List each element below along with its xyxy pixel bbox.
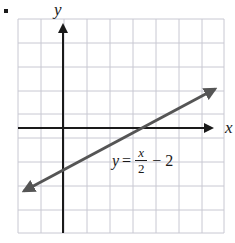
equation-equals-sign: = [122, 153, 131, 169]
equation-fraction: x 2 [135, 146, 147, 175]
graph-figure: y x y = x 2 − 2 [0, 0, 235, 243]
equation-lhs: y [112, 153, 119, 169]
y-axis-label: y [54, 1, 62, 18]
plotted-line [24, 89, 215, 191]
equation-label: y = x 2 − 2 [112, 146, 173, 175]
fraction-numerator: x [136, 146, 146, 160]
x-axis-label: x [225, 119, 233, 136]
fraction-denominator: 2 [136, 161, 147, 175]
equation-constant: 2 [165, 153, 173, 169]
equation-minus-sign: − [152, 153, 161, 169]
coordinate-plane [0, 0, 235, 243]
grid-lines [18, 19, 224, 233]
